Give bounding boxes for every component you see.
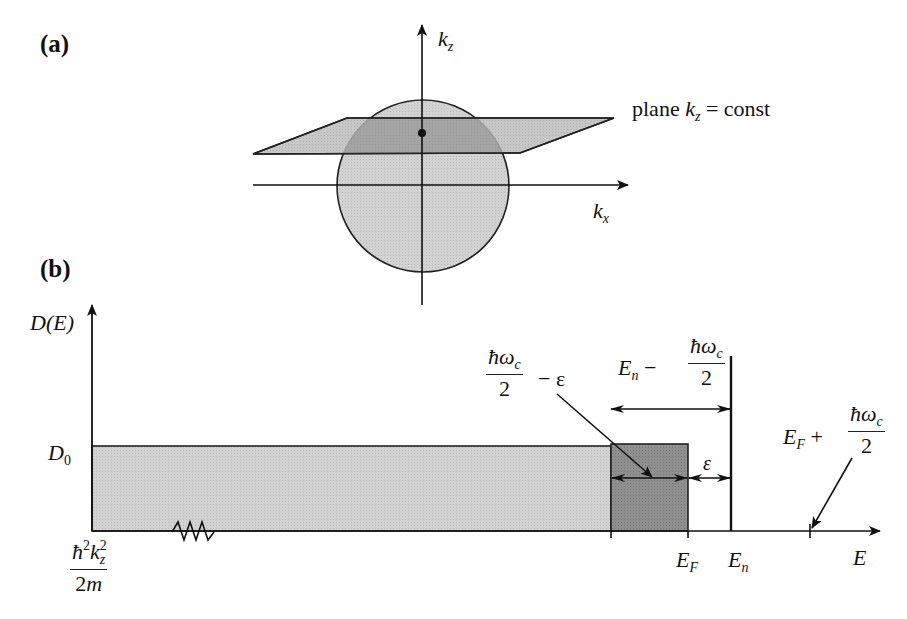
ef-plus-hw-frac: ħωc 2: [848, 402, 885, 459]
hw-minus-eps-suffix: − ε: [538, 366, 565, 392]
en-tick-label: En: [728, 547, 748, 576]
density-of-states-block: [92, 446, 611, 531]
plane-annotation: plane kz = const: [632, 96, 770, 125]
en-minus-hw-label: En −: [618, 355, 656, 384]
intersection-point: [418, 129, 426, 137]
x-axis-label: E: [853, 545, 866, 571]
en-minus-hw-frac: ħωc 2: [688, 334, 725, 391]
panel-b-figure: [92, 305, 880, 540]
pointer-arrow-ef-hw: [812, 458, 852, 528]
epsilon-label: ε: [703, 452, 711, 475]
diagram-canvas: [0, 0, 907, 619]
ef-tick-label: EF: [676, 547, 698, 576]
y-axis-label: D(E): [30, 310, 74, 336]
kz-axis-label: kz: [438, 26, 453, 55]
ef-plus-hw-label: EF +: [783, 424, 823, 453]
shaded-energy-window: [611, 444, 688, 531]
panel-a-figure: [253, 25, 628, 305]
origin-energy-label: ħ2k2z 2m: [70, 538, 107, 597]
kx-axis-label: kx: [593, 198, 609, 227]
hw-minus-eps-frac: ħωc 2: [486, 345, 523, 402]
d0-tick-label: D0: [48, 440, 71, 469]
